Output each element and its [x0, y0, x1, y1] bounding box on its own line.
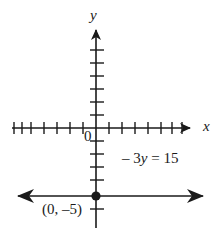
equation-annotation: – 3y = 15: [122, 151, 178, 166]
y-axis-label: y: [90, 8, 97, 23]
equation-lead: – 3: [122, 150, 141, 166]
x-axis-label: x: [203, 119, 210, 134]
coordinate-plane-figure: y x 0 – 3y = 15 (0, –5): [0, 0, 221, 228]
y-axis-ticks-positive: [90, 50, 104, 115]
plotted-point-marker: [91, 191, 100, 200]
x-axis-group: [12, 122, 190, 134]
plotted-point-label: (0, –5): [42, 202, 82, 217]
origin-label: 0: [84, 129, 92, 144]
graph-canvas: [0, 0, 221, 228]
equation-rhs: = 15: [147, 150, 178, 166]
